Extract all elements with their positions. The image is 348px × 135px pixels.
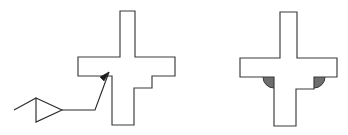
corner-callout-annotation: [14, 72, 109, 122]
right-profile-outline: [240, 12, 337, 126]
technical-drawing-svg: [0, 0, 348, 135]
left-sharp-corner-profile: [78, 11, 175, 125]
figure-canvas: Cross-section profile comparison: sharp …: [0, 0, 348, 135]
right-filleted-corner-profile: [240, 12, 337, 126]
left-profile-outline: [78, 11, 175, 125]
leader-triangle-icon: [36, 98, 62, 122]
leader-line: [14, 72, 109, 110]
